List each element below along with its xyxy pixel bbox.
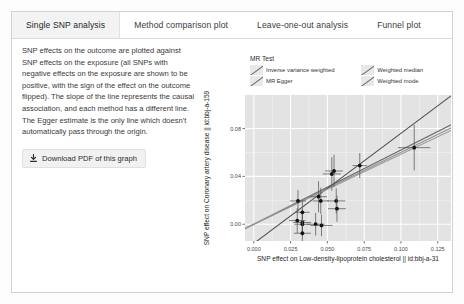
y-axis: 0.000.040.08 (230, 126, 245, 228)
x-axis: 0.0000.0250.0500.0750.1000.125 (247, 241, 445, 252)
y-axis-title: SNP effect on Coronary artery disease ||… (203, 90, 211, 245)
download-pdf-button[interactable]: Download PDF of this graph (22, 149, 146, 168)
plot-canvas: 0.0000.0250.0500.0750.1000.1250.000.040.… (196, 45, 453, 293)
tab-funnel-plot[interactable]: Funnel plot (363, 12, 436, 38)
tab-method-comparison-plot[interactable]: Method comparison plot (120, 12, 243, 38)
data-point (320, 224, 324, 228)
x-tick-label: 0.125 (431, 246, 445, 252)
data-point (295, 219, 299, 223)
data-point (300, 210, 304, 214)
data-point (335, 207, 339, 211)
y-tick-label: 0.04 (230, 173, 241, 179)
data-point (300, 231, 304, 235)
scatter-plot: MR Test Inverse variance weighted Weight… (196, 45, 453, 293)
data-point (334, 199, 338, 203)
tab-leave-one-out-analysis[interactable]: Leave-one-out analysis (243, 12, 363, 38)
x-tick-label: 0.075 (357, 246, 371, 252)
plot-panel (245, 95, 451, 241)
data-point (332, 169, 336, 173)
data-point (296, 199, 300, 203)
description-text: SNP effects on the outcome are plotted a… (22, 45, 198, 138)
download-icon (29, 154, 38, 163)
app-root: Single SNP analysis Method comparison pl… (0, 0, 464, 304)
data-point (317, 195, 321, 199)
tab-single-snp-analysis[interactable]: Single SNP analysis (12, 12, 120, 38)
x-axis-title: SNP effect on Low-density-lipoprotein ch… (257, 255, 439, 263)
y-tick-label: 0.08 (230, 126, 241, 132)
data-point (358, 164, 362, 168)
tab-label: Method comparison plot (134, 20, 228, 30)
data-point (319, 199, 323, 203)
x-tick-label: 0.050 (321, 246, 335, 252)
tab-label: Leave-one-out analysis (257, 20, 348, 30)
analysis-card: Single SNP analysis Method comparison pl… (11, 11, 453, 293)
x-tick-label: 0.100 (394, 246, 408, 252)
description-panel: SNP effects on the outcome are plotted a… (22, 45, 198, 168)
tab-label: Single SNP analysis (26, 20, 105, 30)
tab-label: Funnel plot (377, 20, 421, 30)
download-pdf-label: Download PDF of this graph (42, 154, 137, 163)
x-tick-label: 0.025 (284, 246, 298, 252)
data-point (412, 146, 416, 150)
x-tick-label: 0.000 (247, 246, 261, 252)
tab-bar: Single SNP analysis Method comparison pl… (12, 12, 453, 39)
y-tick-label: 0.00 (230, 221, 241, 227)
